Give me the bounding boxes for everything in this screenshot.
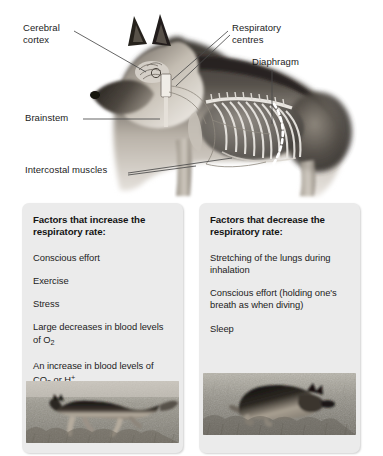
factor-list-decrease: Stretching of the lungs during inhalatio… bbox=[210, 252, 350, 335]
label-brainstem: Brainstem bbox=[25, 112, 68, 124]
panel-factors-increase: Factors that increase the respiratory ra… bbox=[22, 203, 183, 453]
panel-factors-decrease: Factors that decrease the respiratory ra… bbox=[199, 203, 360, 453]
dog-rear-leg bbox=[300, 160, 316, 196]
photo-sleeping-dog bbox=[203, 373, 356, 435]
label-diaphragm: Diaphragm bbox=[252, 56, 299, 68]
factor-item: Conscious effort bbox=[33, 252, 173, 264]
label-cerebral-cortex: Cerebral cortex bbox=[23, 22, 60, 45]
photo-running-dog bbox=[26, 381, 179, 443]
anatomy-figure: Cerebral cortex Respiratory centres Diap… bbox=[0, 0, 383, 200]
factor-item: Conscious effort (holding one's breath a… bbox=[210, 287, 350, 311]
factor-item: Exercise bbox=[33, 275, 173, 287]
factor-item: Sleep bbox=[210, 323, 350, 335]
label-respiratory-centres: Respiratory centres bbox=[232, 22, 281, 45]
panel-decrease-title: Factors that decrease the respiratory ra… bbox=[210, 214, 350, 239]
factor-item: Large decreases in blood levels of O2 bbox=[33, 321, 173, 348]
factor-item: Stretching of the lungs during inhalatio… bbox=[210, 252, 350, 276]
label-intercostal-muscles: Intercostal muscles bbox=[25, 164, 107, 176]
factor-list-increase: Conscious effort Exercise Stress Large d… bbox=[33, 252, 173, 389]
subscript: 2 bbox=[51, 338, 55, 347]
dog-nose bbox=[90, 91, 100, 99]
panel-increase-title: Factors that increase the respiratory ra… bbox=[33, 214, 173, 239]
factor-item: Stress bbox=[33, 298, 173, 310]
